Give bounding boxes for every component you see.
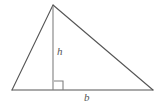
triangle-figure [0, 0, 161, 108]
triangle-left-side [12, 5, 53, 90]
triangle-diagram: h b [0, 0, 161, 108]
triangle-right-side [53, 5, 153, 90]
height-label: h [57, 46, 63, 57]
right-angle-marker-icon [54, 81, 63, 90]
base-label: b [84, 92, 90, 103]
